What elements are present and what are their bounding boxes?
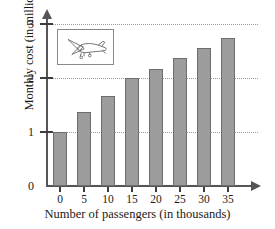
airplane-illustration	[57, 29, 114, 65]
x-tick-label-35: 35	[217, 192, 239, 206]
y-tick-3	[40, 23, 53, 25]
bar-20	[149, 69, 163, 186]
airplane-icon	[58, 30, 113, 64]
y-tick-label-3: 3	[14, 18, 34, 30]
x-tick-label-30: 30	[193, 192, 215, 206]
bar-25	[173, 58, 187, 186]
y-tick-label-2: 2	[14, 72, 34, 84]
bar-15	[125, 78, 139, 186]
bar-30	[197, 48, 211, 186]
y-tick-2	[40, 77, 53, 79]
y-tick-label-1: 1	[14, 126, 34, 138]
x-tick-label-0: 0	[49, 192, 71, 206]
y-tick-1	[40, 131, 53, 133]
x-tick-label-15: 15	[121, 192, 143, 206]
bar-5	[77, 112, 91, 186]
bar-0	[53, 132, 67, 186]
x-axis-arrow-icon	[251, 181, 261, 191]
plot-area: 3 2 1 0	[0, 0, 275, 229]
y-tick-label-0: 0	[14, 180, 34, 192]
y-axis	[46, 18, 48, 187]
x-tick-label-10: 10	[97, 192, 119, 206]
y-axis-arrow-icon	[42, 9, 52, 19]
x-tick-label-20: 20	[145, 192, 167, 206]
bar-10	[101, 96, 115, 186]
bar-chart: Monthly cost (in millions) Number of pas…	[0, 0, 275, 229]
x-tick-label-5: 5	[73, 192, 95, 206]
gridline-3	[46, 24, 258, 25]
bar-35	[221, 38, 235, 186]
x-tick-label-25: 25	[169, 192, 191, 206]
